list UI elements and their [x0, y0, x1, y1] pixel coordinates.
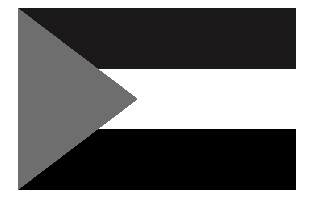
image-canvas	[0, 0, 311, 206]
flag-graphic	[0, 0, 311, 206]
